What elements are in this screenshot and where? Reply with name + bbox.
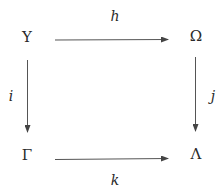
node-lambda: Λ [191,147,202,162]
label-j: j [211,89,215,103]
arrow-top-h [55,40,168,41]
node-gamma: Γ [22,148,32,163]
label-h: h [110,9,119,23]
node-omega: Ω [190,29,202,44]
label-i: i [9,89,13,103]
commutative-diagram: Υ Ω Γ Λ h k i j [0,0,224,192]
node-upsilon: Υ [22,30,32,45]
arrow-bottom-k [55,159,168,160]
label-k: k [111,173,119,187]
